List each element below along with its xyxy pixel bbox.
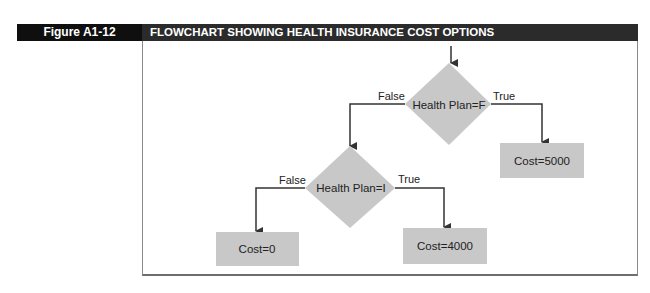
flowchart-canvas (0, 0, 650, 293)
edge-d2-false (256, 188, 305, 231)
outcome-label-4000: Cost=4000 (417, 240, 473, 252)
edge-label-d2-false: False (279, 174, 306, 186)
edge-label-d1-true: True (493, 90, 515, 102)
edge-label-d1-false: False (378, 90, 405, 102)
outcome-label-0: Cost=0 (239, 243, 276, 255)
edge-d2-true (395, 188, 444, 227)
decision-label-plan-i: Health Plan=I (316, 182, 385, 194)
edge-d1-false (350, 104, 405, 146)
decision-label-plan-f: Health Plan=F (412, 99, 485, 111)
edge-d1-true (491, 104, 542, 142)
edge-label-d2-true: True (398, 173, 420, 185)
outcome-label-5000: Cost=5000 (514, 155, 570, 167)
